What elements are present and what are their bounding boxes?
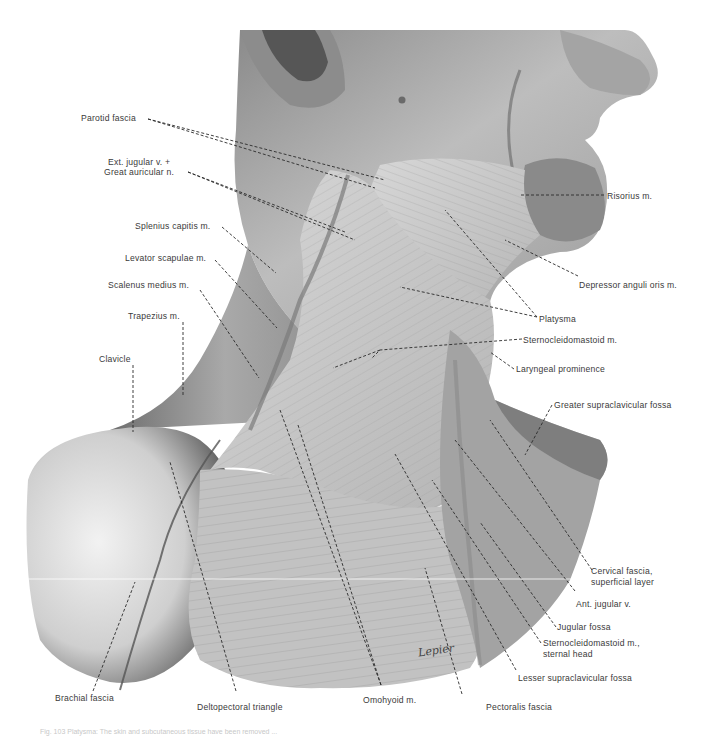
label-great-auricular-nerve: Great auricular n.	[104, 167, 174, 177]
label-ext-jugular-vein: Ext. jugular v. +	[108, 157, 170, 167]
label-deltopectoral-triangle: Deltopectoral triangle	[197, 702, 283, 712]
label-cervical-fascia-line1: Cervical fascia,	[591, 566, 652, 576]
label-pectoralis-fascia: Pectoralis fascia	[486, 702, 552, 712]
label-trapezius: Trapezius m.	[128, 311, 180, 321]
label-lesser-supraclavicular-fossa: Lesser supraclavicular fossa	[518, 673, 632, 683]
label-greater-supraclavicular-fossa: Greater supraclavicular fossa	[554, 400, 672, 410]
label-jugular-fossa: Jugular fossa	[557, 622, 611, 632]
label-sternocleidomastoid: Sternocleidomastoid m.	[523, 335, 617, 345]
label-scm-sternal-head-line2: sternal head	[543, 649, 593, 659]
label-risorius: Risorius m.	[607, 191, 652, 201]
label-splenius-capitis: Splenius capitis m.	[135, 221, 210, 231]
label-ant-jugular-vein: Ant. jugular v.	[576, 599, 631, 609]
label-brachial-fascia: Brachial fascia	[55, 693, 114, 703]
label-depressor-anguli-oris: Depressor anguli oris m.	[579, 280, 677, 290]
label-levator-scapulae: Levator scapulae m.	[125, 253, 206, 263]
label-clavicle: Clavicle	[99, 354, 131, 364]
label-scm-sternal-head-line1: Sternocleidomastoid m.,	[543, 638, 640, 648]
anatomy-figure: Parotid fascia Ext. jugular v. + Great a…	[0, 0, 705, 737]
label-parotid-fascia: Parotid fascia	[81, 113, 136, 123]
label-cervical-fascia-line2: superficial layer	[591, 577, 654, 587]
label-laryngeal-prominence: Laryngeal prominence	[516, 364, 605, 374]
label-platysma: Platysma	[539, 314, 576, 324]
figure-caption: Fig. 103 Platysma: The skin and subcutan…	[40, 728, 277, 735]
mole	[399, 97, 406, 104]
label-scalenus-medius: Scalenus medius m.	[108, 280, 189, 290]
label-omohyoid: Omohyoid m.	[363, 695, 416, 705]
